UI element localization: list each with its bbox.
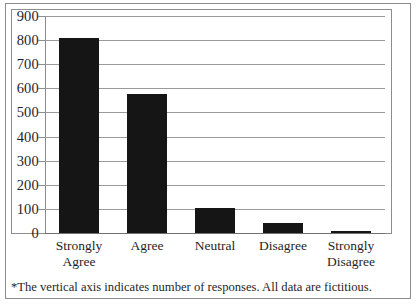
y-axis-tick <box>38 40 45 41</box>
x-axis-tick-label: Neutral <box>181 238 249 254</box>
x-axis-label-line: Disagree <box>249 238 317 254</box>
x-axis-baseline <box>45 233 385 234</box>
bar <box>127 94 167 233</box>
x-axis-tick-label: StronglyDisagree <box>317 238 385 269</box>
y-axis-tick-label: 600 <box>17 81 39 96</box>
chart-footnote: *The vertical axis indicates number of r… <box>11 279 392 295</box>
y-axis-tick-label: 200 <box>17 178 39 193</box>
x-axis-tick-label: Disagree <box>249 238 317 254</box>
y-axis-tick-label: 400 <box>17 129 39 144</box>
y-axis-tick <box>38 16 45 17</box>
y-axis-tick <box>38 161 45 162</box>
plot-area <box>45 16 385 233</box>
y-axis-tick-label: 300 <box>17 153 39 168</box>
y-axis-tick <box>38 185 45 186</box>
bar <box>195 208 235 233</box>
x-axis-tick-label: Agree <box>113 238 181 254</box>
y-axis-tick <box>38 209 45 210</box>
figure: 9008007006005004003002001000 StronglyAgr… <box>0 0 418 308</box>
y-axis-tick-label: 800 <box>17 33 39 48</box>
x-axis-label-line: Strongly <box>317 238 385 254</box>
bar <box>331 231 371 233</box>
x-axis-tick-label: StronglyAgree <box>45 238 113 269</box>
x-axis-labels: StronglyAgreeAgreeNeutralDisagreeStrongl… <box>45 238 385 280</box>
y-axis-line <box>45 16 46 233</box>
y-axis-tick <box>38 233 45 234</box>
x-axis-label-line: Strongly <box>45 238 113 254</box>
x-axis-label-line: Agree <box>45 254 113 270</box>
y-axis-tick-label: 500 <box>17 105 39 120</box>
x-axis-label-line: Agree <box>113 238 181 254</box>
x-axis-label-line: Neutral <box>181 238 249 254</box>
x-axis-label-line: Disagree <box>317 254 385 270</box>
bar <box>59 38 99 233</box>
y-axis-tick <box>38 112 45 113</box>
y-axis-tick <box>38 88 45 89</box>
y-axis-tick <box>38 64 45 65</box>
y-axis-tick-label: 900 <box>17 9 39 24</box>
y-axis-tick-label: 100 <box>17 202 39 217</box>
y-axis-labels: 9008007006005004003002001000 <box>0 16 39 233</box>
y-axis-tick <box>38 137 45 138</box>
bar <box>263 223 303 233</box>
gridline <box>45 16 385 17</box>
y-axis-tick-label: 700 <box>17 57 39 72</box>
